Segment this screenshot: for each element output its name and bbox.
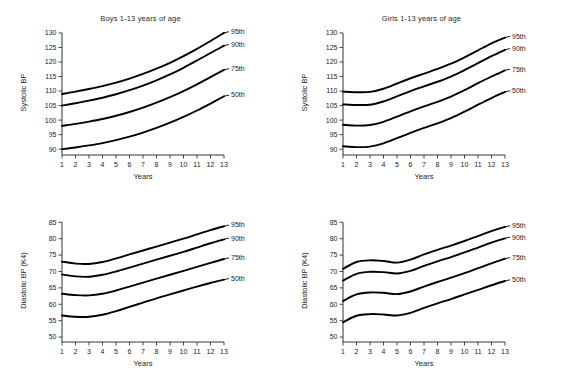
svg-text:100: 100 bbox=[326, 117, 338, 124]
svg-text:11: 11 bbox=[193, 161, 200, 168]
panel-boys-diastolic: 505560657075808512345678910111213YearsDi… bbox=[0, 187, 281, 374]
svg-text:120: 120 bbox=[45, 58, 57, 65]
svg-text:3: 3 bbox=[368, 161, 372, 168]
svg-text:75th: 75th bbox=[231, 254, 245, 261]
svg-text:75: 75 bbox=[49, 251, 57, 258]
svg-text:6: 6 bbox=[409, 348, 413, 355]
svg-text:105: 105 bbox=[45, 102, 57, 109]
svg-text:2: 2 bbox=[355, 161, 359, 168]
svg-text:95th: 95th bbox=[231, 221, 245, 228]
svg-text:1: 1 bbox=[60, 348, 64, 355]
plot-boys-diastolic: 505560657075808512345678910111213YearsDi… bbox=[0, 187, 281, 374]
svg-text:Years: Years bbox=[415, 172, 434, 181]
svg-text:130: 130 bbox=[45, 29, 57, 36]
svg-text:70: 70 bbox=[49, 268, 57, 275]
svg-text:8: 8 bbox=[155, 161, 159, 168]
svg-text:Years: Years bbox=[415, 359, 434, 368]
svg-text:10: 10 bbox=[180, 348, 188, 355]
svg-text:11: 11 bbox=[474, 161, 481, 168]
svg-text:8: 8 bbox=[155, 348, 159, 355]
svg-text:110: 110 bbox=[326, 87, 337, 94]
svg-text:5: 5 bbox=[395, 348, 399, 355]
svg-text:75: 75 bbox=[330, 251, 338, 258]
svg-text:6: 6 bbox=[409, 161, 413, 168]
svg-text:55: 55 bbox=[330, 317, 338, 324]
svg-text:Years: Years bbox=[134, 359, 153, 368]
svg-text:4: 4 bbox=[382, 161, 386, 168]
svg-text:12: 12 bbox=[207, 161, 215, 168]
svg-text:115: 115 bbox=[326, 73, 337, 80]
svg-text:115: 115 bbox=[45, 73, 56, 80]
svg-text:1: 1 bbox=[341, 161, 345, 168]
svg-text:Systolic BP: Systolic BP bbox=[300, 74, 309, 112]
svg-text:50th: 50th bbox=[231, 91, 245, 98]
svg-text:9: 9 bbox=[449, 161, 453, 168]
svg-text:13: 13 bbox=[501, 161, 509, 168]
svg-text:9: 9 bbox=[168, 348, 172, 355]
svg-text:120: 120 bbox=[326, 58, 338, 65]
svg-text:60: 60 bbox=[49, 301, 57, 308]
svg-text:2: 2 bbox=[74, 161, 78, 168]
svg-text:105: 105 bbox=[326, 102, 338, 109]
svg-text:85: 85 bbox=[330, 219, 338, 226]
svg-text:95: 95 bbox=[49, 131, 57, 138]
svg-text:95th: 95th bbox=[231, 28, 245, 35]
svg-text:90th: 90th bbox=[512, 45, 526, 52]
svg-text:75th: 75th bbox=[512, 254, 526, 261]
bp-percentile-figure: Boys 1-13 years of age 90951001051101151… bbox=[0, 0, 562, 374]
svg-text:4: 4 bbox=[101, 161, 105, 168]
svg-text:7: 7 bbox=[141, 348, 145, 355]
svg-text:12: 12 bbox=[207, 348, 215, 355]
svg-text:Diastolic BP (K4): Diastolic BP (K4) bbox=[19, 252, 28, 309]
svg-text:60: 60 bbox=[330, 301, 338, 308]
svg-text:9: 9 bbox=[168, 161, 172, 168]
svg-text:100: 100 bbox=[45, 117, 57, 124]
svg-text:125: 125 bbox=[326, 44, 338, 51]
svg-text:50th: 50th bbox=[512, 87, 526, 94]
svg-text:10: 10 bbox=[180, 161, 188, 168]
svg-text:95th: 95th bbox=[512, 222, 526, 229]
svg-text:Years: Years bbox=[134, 172, 153, 181]
plot-boys-systolic: 9095100105110115120125130123456789101112… bbox=[0, 0, 281, 187]
svg-text:50: 50 bbox=[330, 333, 338, 340]
svg-text:85: 85 bbox=[49, 219, 57, 226]
svg-text:95: 95 bbox=[330, 131, 338, 138]
svg-text:2: 2 bbox=[355, 348, 359, 355]
svg-text:1: 1 bbox=[341, 348, 345, 355]
svg-text:70: 70 bbox=[330, 268, 338, 275]
svg-text:6: 6 bbox=[128, 348, 132, 355]
svg-text:80: 80 bbox=[49, 235, 57, 242]
plot-girls-diastolic: 505560657075808512345678910111213YearsDi… bbox=[281, 187, 562, 374]
svg-text:12: 12 bbox=[488, 348, 496, 355]
svg-text:11: 11 bbox=[474, 348, 481, 355]
svg-text:13: 13 bbox=[501, 348, 509, 355]
svg-text:7: 7 bbox=[141, 161, 145, 168]
svg-text:5: 5 bbox=[114, 161, 118, 168]
svg-text:13: 13 bbox=[220, 161, 228, 168]
svg-text:90th: 90th bbox=[231, 41, 245, 48]
svg-text:95th: 95th bbox=[512, 33, 526, 40]
svg-text:8: 8 bbox=[436, 348, 440, 355]
svg-text:2: 2 bbox=[74, 348, 78, 355]
svg-text:65: 65 bbox=[49, 284, 57, 291]
svg-text:90th: 90th bbox=[512, 234, 526, 241]
svg-text:10: 10 bbox=[461, 348, 469, 355]
svg-text:12: 12 bbox=[488, 161, 496, 168]
svg-text:Systolic BP: Systolic BP bbox=[19, 74, 28, 112]
svg-text:50: 50 bbox=[49, 333, 57, 340]
svg-text:6: 6 bbox=[128, 161, 132, 168]
svg-text:90: 90 bbox=[330, 146, 338, 153]
panel-boys-systolic: Boys 1-13 years of age 90951001051101151… bbox=[0, 0, 281, 187]
svg-text:Diastolic BP (K4): Diastolic BP (K4) bbox=[300, 252, 309, 309]
svg-text:8: 8 bbox=[436, 161, 440, 168]
svg-text:5: 5 bbox=[395, 161, 399, 168]
svg-text:50th: 50th bbox=[512, 276, 526, 283]
svg-text:80: 80 bbox=[330, 235, 338, 242]
svg-text:50th: 50th bbox=[231, 275, 245, 282]
svg-text:130: 130 bbox=[326, 29, 338, 36]
svg-text:75th: 75th bbox=[231, 65, 245, 72]
svg-text:75th: 75th bbox=[512, 66, 526, 73]
svg-text:3: 3 bbox=[368, 348, 372, 355]
svg-text:1: 1 bbox=[60, 161, 64, 168]
svg-text:90: 90 bbox=[49, 146, 57, 153]
